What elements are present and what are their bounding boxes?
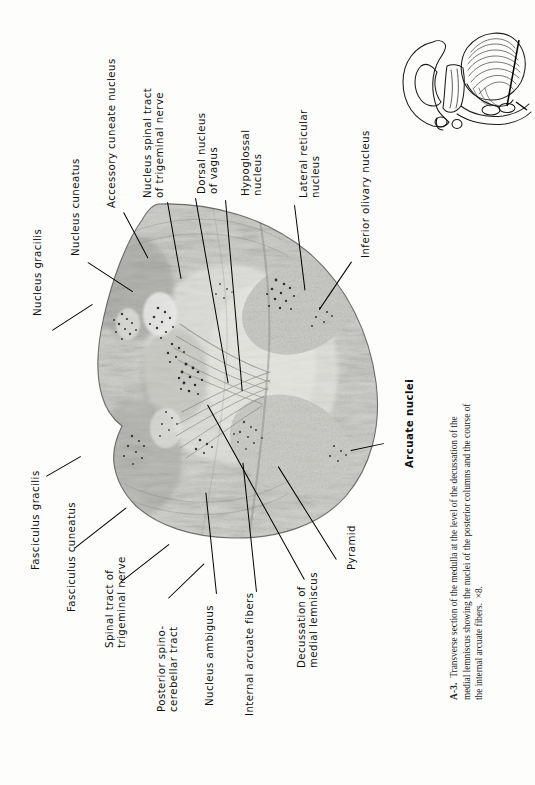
label-pyramid: Pyramid bbox=[346, 525, 358, 570]
figure-caption: A-3. Transverse section of the medulla a… bbox=[448, 400, 486, 700]
label-inferior-olivary-nucleus: Inferior olivary nucleus bbox=[360, 130, 372, 258]
label-fasciculus-gracilis: Fasciculus gracilis bbox=[30, 470, 42, 570]
label-dorsal-nucleus-vagus: Dorsal nucleus of vagus bbox=[196, 112, 219, 194]
label-nucleus-gracilis: Nucleus gracilis bbox=[32, 229, 44, 316]
caption-magnification: ×8. bbox=[474, 586, 484, 598]
label-decussation-medial-lemniscus: Decussation of medial lemniscus bbox=[296, 572, 319, 668]
label-posterior-spinocerebellar-tract: Posterior spino- cerebellar tract bbox=[156, 625, 179, 712]
leader-spinal-tract-trigeminal bbox=[120, 544, 170, 583]
caption-line-1: Transverse section of the medulla at the… bbox=[449, 416, 459, 677]
figure-number: A-3. bbox=[449, 682, 459, 700]
label-hypoglossal-nucleus: Hypoglossal nucleus bbox=[240, 129, 263, 196]
label-accessory-cuneate-nucleus: Accessory cuneate nucleus bbox=[106, 58, 118, 208]
label-nucleus-cuneatus: Nucleus cuneatus bbox=[70, 158, 82, 256]
label-spinal-tract-trigeminal: Spinal tract of trigeminal nerve bbox=[104, 556, 127, 648]
label-arcuate-nuclei: Arcuate nuclei bbox=[404, 379, 416, 468]
caption-line-3: internal arcuate fibers. bbox=[474, 603, 484, 686]
medulla-section-image bbox=[62, 196, 392, 541]
label-nucleus-spinal-tract-trigeminal: Nucleus spinal tract of trigeminal nerve bbox=[142, 88, 165, 198]
label-nucleus-ambiguus: Nucleus ambiguus bbox=[204, 605, 216, 706]
label-lateral-reticular-nucleus: Lateral reticular nucleus bbox=[298, 109, 321, 198]
label-fasciculus-cuneatus: Fasciculus cuneatus bbox=[66, 502, 78, 612]
figure-page: Nucleus gracilis Nucleus cuneatus Access… bbox=[0, 0, 535, 785]
leader-posterior-spinocerebellar-tract bbox=[168, 563, 205, 599]
label-internal-arcuate-fibers: Internal arcuate fibers bbox=[244, 592, 256, 716]
brainstem-orientation-inset bbox=[395, 22, 535, 152]
